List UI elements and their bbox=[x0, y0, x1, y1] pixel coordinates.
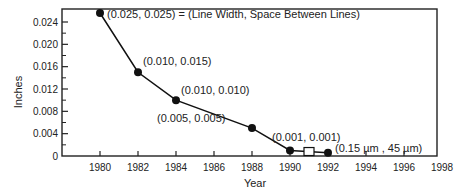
line-chart: 00.0040.0080.0120.0160.0200.024 19801982… bbox=[0, 0, 462, 192]
y-tick-label: 0.008 bbox=[33, 106, 58, 117]
x-tick-label: 1982 bbox=[127, 162, 150, 173]
y-tick-label: 0.020 bbox=[33, 39, 58, 50]
y-axis-title: Inches bbox=[12, 75, 24, 108]
x-tick-label: 1992 bbox=[317, 162, 340, 173]
data-point bbox=[324, 149, 332, 157]
open-square-marker bbox=[304, 148, 314, 156]
plot-frame bbox=[62, 9, 437, 156]
annotations: (0.025, 0.025) = (Line Width, Space Betw… bbox=[107, 8, 422, 154]
point-annotation: (0.001, 0.001) bbox=[272, 131, 341, 143]
y-tick-label: 0.016 bbox=[33, 61, 58, 72]
point-annotation: (0.010, 0.010) bbox=[181, 84, 250, 96]
point-annotation: (0.15 µm , 45 µm) bbox=[335, 142, 422, 154]
y-axis: 00.0040.0080.0120.0160.0200.024 bbox=[33, 17, 68, 162]
x-tick-label: 1994 bbox=[355, 162, 378, 173]
y-tick-label: 0.024 bbox=[33, 17, 58, 28]
x-axis-title: Year bbox=[244, 177, 267, 189]
data-point bbox=[172, 96, 180, 104]
x-tick-label: 1996 bbox=[393, 162, 416, 173]
data-point bbox=[248, 124, 256, 132]
y-tick-label: 0.004 bbox=[33, 128, 58, 139]
point-annotation: (0.025, 0.025) = (Line Width, Space Betw… bbox=[107, 8, 360, 20]
x-tick-label: 1980 bbox=[89, 162, 112, 173]
data-point bbox=[134, 68, 142, 76]
x-tick-label: 1986 bbox=[203, 162, 226, 173]
x-tick-label: 1990 bbox=[279, 162, 302, 173]
point-annotation: (0.005, 0.005) bbox=[157, 112, 226, 124]
x-tick-label: 1988 bbox=[241, 162, 264, 173]
data-point bbox=[96, 9, 104, 17]
x-tick-label: 1998 bbox=[431, 162, 454, 173]
x-tick-label: 1984 bbox=[165, 162, 188, 173]
y-tick-label: 0.012 bbox=[33, 84, 58, 95]
x-axis: 1980198219841986198819901992199419961998 bbox=[89, 151, 454, 173]
point-annotation: (0.010, 0.015) bbox=[143, 55, 212, 67]
y-tick-label: 0 bbox=[52, 151, 58, 162]
data-point bbox=[286, 146, 294, 154]
